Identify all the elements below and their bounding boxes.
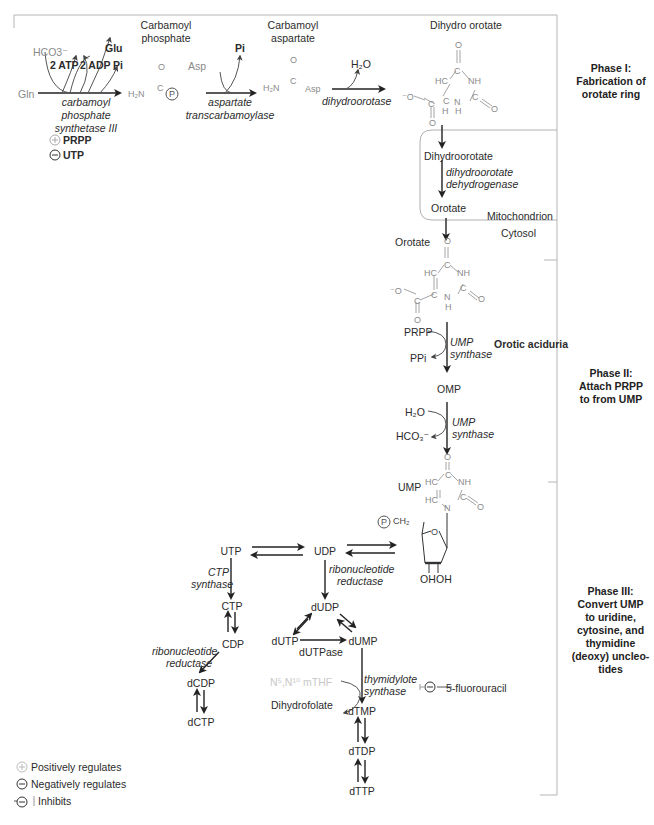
rnr-left-line1: ribonucleotide [152,645,217,657]
phase-3-line3: to uridine, [563,611,654,624]
ump-synthase-2-line1: UMP [452,416,475,428]
phase-3-label: Phase III: Convert UMP to uridine, cytos… [563,585,654,676]
ump-label: UMP [398,481,421,493]
thymidylate-synthase-line2: synthase [364,685,406,697]
ch2-label: CH₂ [393,516,410,526]
utp-node: UTP [221,545,242,557]
rnr-right-line2: reductase [337,575,383,587]
cp-carbon: C [157,83,164,93]
legend-inhibits: Inhibits [38,795,71,807]
phase-3-line6: (deoxy) uncleo- [563,650,654,663]
cps3-enzyme-line3: synthetase III [55,122,117,134]
cytosol-label: Cytosol [501,227,536,239]
positive-regulation-icon [50,135,60,145]
phase-3-line5: thymidine [563,637,654,650]
water-label: H₂O [351,58,371,70]
dcdp-node: dCDP [187,677,215,689]
cp-oxygen: O [158,62,165,72]
udp-node: UDP [314,545,336,557]
mito-orotate: Orotate [431,202,466,214]
ump-synthase-1-line2: synthase [450,348,492,360]
rnr-right-line1: ribonucleotide [329,563,394,575]
dihydrofolate-label: Dihydrofolate [271,699,333,711]
oh-3prime: OH [436,573,452,585]
ump-synthase-1-line1: UMP [450,336,473,348]
adp-label: 2 ADP [80,59,111,71]
phase-1-label: Phase I: Fabrication of orotate ring [566,62,654,101]
ribose-oxygen: O [431,527,438,537]
rnr-left-line2: reductase [166,657,212,669]
phase-1-line3: orotate ring [566,88,654,101]
asp-label: Asp [188,60,206,72]
methylene-thf-label: N⁵,N¹⁰ mTHF [270,676,332,688]
gln-label: Gln [18,88,34,100]
omp-label: OMP [437,383,461,395]
ctp-node: CTP [222,600,243,612]
dihydroorotate-title: Dihydro orotate [430,19,502,31]
phase-1-line2: Fabrication of [566,75,654,88]
cdp-node: CDP [222,638,244,650]
bicarbonate-label: HCO3⁻ [33,46,68,58]
carbamoyl-phosphate-line1: Carbamoyl [141,19,192,31]
orotate-label: Orotate [395,236,430,248]
dhodh-enzyme-line2: dehydrogenase [446,178,518,190]
fluorouracil-inhibitor: 5-fluorouracil [446,682,507,694]
ppi-product: PPi [410,352,426,364]
ump-synthase-2-line2: synthase [452,428,494,440]
phosphate-icon: P [169,89,175,99]
ca-carbon: C [290,76,297,86]
prpp-substrate: PRPP [404,326,433,338]
ctp-synthase-line2: synthase [191,578,233,590]
orotic-aciduria-label: Orotic aciduria [494,338,568,350]
dctp-node: dCTP [188,716,215,728]
phase-3-line4: cytosine, and [563,624,654,637]
dutpase-enzyme: dUTPase [299,646,343,658]
dihydroorotase-enzyme: dihydroorotase [322,95,391,107]
oh-2prime: OH [420,573,436,585]
legend-positive: Positively regulates [31,761,121,773]
ca-h2n: H₂N [263,83,280,93]
legend-negative: Negatively regulates [31,778,126,790]
phase-3-line2: Convert UMP [563,598,654,611]
negative-regulation-icon [50,150,60,160]
cp-h2n: H₂N [128,89,145,99]
phase-2-line2: Attach PRPP [566,380,654,393]
bicarbonate-product: HCO₃⁻ [396,430,429,442]
ctp-synthase-line1: CTP [208,566,229,578]
thymidylate-synthase-line1: thymidylote [364,673,417,685]
dutp-node: dUTP [272,635,299,647]
phase-2-title: Phase II: [566,367,654,380]
phase-1-title: Phase I: [566,62,654,75]
ribose-ring [422,513,447,573]
phase-2-label: Phase II: Attach PRPP to from UMP [566,367,654,406]
dttp-node: dTTP [349,785,375,797]
carbamoyl-phosphate-line2: phosphate [141,32,190,44]
water-substrate: H₂O [405,406,425,418]
mitochondrion-label: Mitochondrion [487,210,553,222]
cps3-enzyme-line1: carbamoyl [62,96,110,108]
prpp-activator: PRPP [63,134,92,146]
pi-label: Pi [113,59,123,71]
atc-enzyme-line1: aspartate [208,96,252,108]
dtmp-node: dTMP [348,705,376,717]
dudp-node: dUDP [311,601,339,613]
phase-3-line7: tides [563,663,654,676]
phase-3-title: Phase III: [563,585,654,598]
carbamoyl-aspartate-line1: Carbamoyl [268,19,319,31]
dhodh-enzyme-line1: dihydroorotate [446,166,513,178]
mito-dihydroorotate: Dihydroorotate [424,150,493,162]
atc-enzyme-line2: transcarbamoylase [186,109,275,121]
carbamoyl-aspartate-line2: aspartate [271,32,315,44]
ribose-phosphate-icon: P [381,517,387,527]
dump-node: dUMP [348,635,377,647]
utp-inhibitor: UTP [63,149,84,161]
cps3-enzyme-line2: phosphate [61,109,110,121]
ca-oxygen: O [290,55,297,65]
atp-label: 2 ATP [50,59,79,71]
dtdp-node: dTDP [349,745,376,757]
pi2-label: Pi [235,42,245,54]
glu-label: Glu [105,42,123,54]
ca-asp: Asp [305,84,321,94]
phase-2-line3: to from UMP [566,393,654,406]
